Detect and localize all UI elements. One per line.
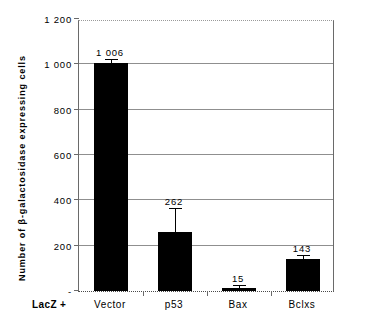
- bar-bax[interactable]: [222, 288, 256, 291]
- bar-chart-figure: Number of β-galactosidase expressing cel…: [0, 0, 369, 333]
- y-tick-mark: [74, 18, 79, 19]
- y-tick-mark: [74, 245, 79, 246]
- x-separator-tick: [207, 291, 208, 296]
- error-bar-stem: [239, 286, 240, 287]
- error-bar-cap: [233, 285, 246, 286]
- y-tick-label: 600: [26, 151, 72, 161]
- y-axis-tick-labels: -2004006008001 0001 200: [26, 20, 72, 292]
- value-label-bclxs: 143: [272, 243, 332, 254]
- bar-bclxs[interactable]: [286, 259, 320, 291]
- value-label-bax: 15: [208, 273, 268, 284]
- value-label-p53: 262: [144, 196, 204, 207]
- x-separator-tick: [271, 291, 272, 296]
- y-tick-mark: [74, 154, 79, 155]
- bar-vector[interactable]: [94, 63, 128, 291]
- y-tick-mark: [74, 290, 79, 291]
- y-tick-label: -: [26, 287, 72, 297]
- error-bar-stem: [175, 209, 176, 231]
- x-axis-tick-labels: LacZ + Vectorp53BaxBclxs: [0, 298, 369, 320]
- error-bar-cap: [105, 59, 118, 60]
- y-tick-label: 1 000: [26, 60, 72, 70]
- y-tick-label: 200: [26, 242, 72, 252]
- error-bar-cap: [297, 255, 310, 256]
- x-separator-tick: [143, 291, 144, 296]
- y-tick-mark: [74, 199, 79, 200]
- y-tick-mark: [74, 63, 79, 64]
- y-tick-label: 400: [26, 196, 72, 206]
- value-label-vector: 1 006: [80, 47, 140, 58]
- y-tick-label: 800: [26, 106, 72, 116]
- x-tick-label-bclxs[interactable]: Bclxs: [262, 298, 342, 312]
- error-bar-cap: [169, 208, 182, 209]
- error-bar-stem: [303, 256, 304, 259]
- y-tick-label: 1 200: [26, 15, 72, 25]
- y-tick-mark: [74, 109, 79, 110]
- bar-p53[interactable]: [158, 232, 192, 291]
- error-bar-stem: [111, 60, 112, 63]
